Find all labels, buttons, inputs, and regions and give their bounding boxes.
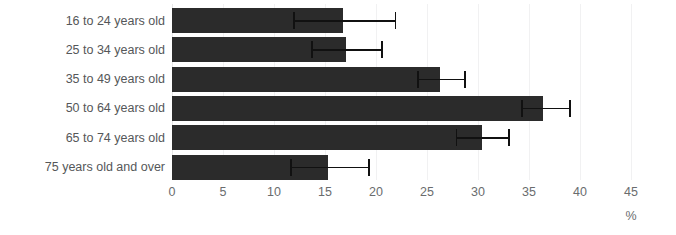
error-bar-line (293, 20, 396, 22)
error-bar-line (521, 108, 571, 110)
axis-unit-label: % (611, 210, 651, 223)
error-bar-cap-low (521, 100, 523, 117)
bar (172, 125, 482, 150)
x-tick-label: 30 (458, 186, 498, 199)
gridline-35 (529, 4, 530, 180)
x-tick-label: 25 (407, 186, 447, 199)
error-bar (311, 41, 383, 58)
category-label: 35 to 49 years old (0, 73, 165, 86)
error-bar-cap-low (293, 12, 295, 29)
error-bar-cap-high (368, 159, 370, 176)
x-tick-label: 0 (152, 186, 192, 199)
error-bar (290, 159, 370, 176)
category-label: 16 to 24 years old (0, 15, 165, 28)
error-bar-cap-high (381, 41, 383, 58)
error-bar (417, 71, 466, 88)
error-bar (521, 100, 571, 117)
error-bar-line (417, 79, 466, 81)
error-bar (456, 129, 510, 146)
gridline-40 (580, 4, 581, 180)
gridline-45 (631, 4, 632, 180)
x-tick-label: 10 (254, 186, 294, 199)
error-bar-cap-low (311, 41, 313, 58)
error-bar (293, 12, 396, 29)
x-tick-label: 15 (305, 186, 345, 199)
error-bar-line (456, 137, 510, 139)
category-label: 65 to 74 years old (0, 132, 165, 145)
x-tick-label: 20 (356, 186, 396, 199)
category-label: 50 to 64 years old (0, 102, 165, 115)
x-tick-label: 40 (560, 186, 600, 199)
x-tick-label: 45 (611, 186, 651, 199)
error-bar-cap-high (464, 71, 466, 88)
category-label: 75 years old and over (0, 161, 165, 174)
error-bar-cap-high (395, 12, 397, 29)
error-bar-line (290, 167, 370, 169)
x-tick-label: 5 (203, 186, 243, 199)
category-label: 25 to 34 years old (0, 44, 165, 57)
error-bar-cap-low (417, 71, 419, 88)
error-bar-cap-low (456, 129, 458, 146)
bar (172, 67, 440, 92)
bar-chart: 16 to 24 years old25 to 34 years old35 t… (0, 0, 676, 235)
error-bar-cap-high (569, 100, 571, 117)
error-bar-line (311, 49, 383, 51)
error-bar-cap-low (290, 159, 292, 176)
x-tick-label: 35 (509, 186, 549, 199)
gridline-25 (427, 4, 428, 180)
gridline-30 (478, 4, 479, 180)
bar (172, 96, 543, 121)
error-bar-cap-high (508, 129, 510, 146)
gridline-20 (376, 4, 377, 180)
plot-area (172, 4, 631, 180)
